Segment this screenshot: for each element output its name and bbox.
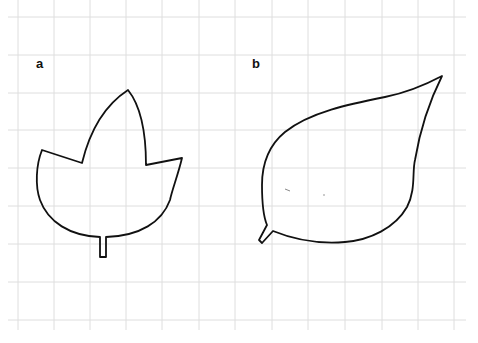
- pencil-mark: [323, 194, 325, 196]
- leaf-a-outline: [37, 90, 182, 257]
- panel-label-b: b: [252, 57, 260, 70]
- grid-and-leaves: [0, 0, 478, 343]
- leaf-b-outline: [259, 76, 442, 243]
- graph-paper-grid: [8, 0, 466, 330]
- leaf-figure: a b: [0, 0, 478, 343]
- pencil-mark: [285, 189, 290, 191]
- panel-label-a: a: [36, 57, 43, 70]
